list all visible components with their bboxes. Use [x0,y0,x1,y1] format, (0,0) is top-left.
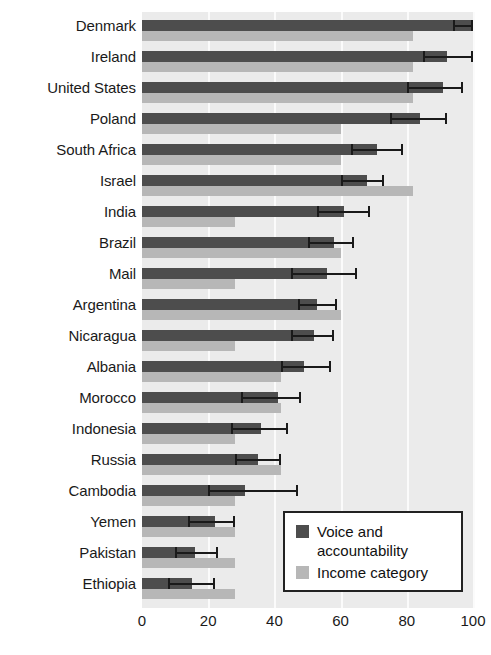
bar-row [142,454,473,485]
error-bar-cap-low [423,51,425,62]
bar-income [142,93,413,103]
bar-voice [142,144,377,155]
bar-voice [142,175,367,186]
error-bar [390,113,446,124]
y-axis-label: Mail [2,265,136,282]
error-bar-cap-high [299,392,301,403]
error-bar [281,361,331,372]
chart-legend: Voice and accountability Income category [283,511,463,592]
bar-income [142,217,235,227]
error-bar-cap-low [168,578,170,589]
y-axis-label: Israel [2,172,136,189]
bar-income [142,372,281,382]
bar-row [142,361,473,392]
error-bar [423,51,473,62]
bar-voice [142,237,334,248]
bar-income [142,527,235,537]
x-axis-tick-20: 20 [200,612,217,629]
y-axis-label: Denmark [2,17,136,34]
y-axis-category-labels: DenmarkIrelandUnited StatesPolandSouth A… [0,12,136,608]
bar-voice [142,299,317,310]
bar-income [142,31,413,41]
error-bar-line [291,273,357,275]
bar-income [142,403,281,413]
y-axis-label: Poland [2,110,136,127]
error-bar [235,454,281,465]
legend-item-income-category: Income category [296,563,428,582]
error-bar [308,237,354,248]
bar-income [142,186,413,196]
error-bar-line [235,459,281,461]
bar-income [142,341,235,351]
error-bar-cap-high [382,175,384,186]
legend-label-income: Income category [317,563,428,582]
error-bar-line [291,335,334,337]
bar-row [142,113,473,144]
error-bar-line [351,149,404,151]
error-bar [291,330,334,341]
error-bar-cap-low [308,237,310,248]
legend-item-voice-and-accountability: Voice and accountability [296,522,452,560]
error-bar-cap-high [332,330,334,341]
error-bar-cap-low [208,485,210,496]
y-axis-label: Cambodia [2,482,136,499]
error-bar-cap-low [241,392,243,403]
y-axis-label: United States [2,79,136,96]
error-bar-cap-high [216,547,218,558]
error-bar [188,516,234,527]
x-axis-tick-0: 0 [138,612,146,629]
bar-row [142,144,473,175]
bar-income [142,434,235,444]
y-axis-label: Nicaragua [2,327,136,344]
error-bar [351,144,404,155]
error-bar-cap-high [335,299,337,310]
bar-voice [142,361,304,372]
error-bar-cap-low [351,144,353,155]
error-bar-cap-low [281,361,283,372]
error-bar-cap-high [445,113,447,124]
error-bar-cap-high [461,82,463,93]
y-axis-label: Brazil [2,234,136,251]
error-bar-cap-high [368,206,370,217]
error-bar-line [308,242,354,244]
bar-row [142,82,473,113]
bar-row [142,237,473,268]
x-axis-tick-60: 60 [332,612,349,629]
x-axis-tick-80: 80 [398,612,415,629]
bar-income [142,310,341,320]
x-axis-tick-labels: 020406080100 [142,612,473,642]
error-bar [168,578,214,589]
error-bar [175,547,218,558]
error-bar-line [407,87,463,89]
y-axis-label: Indonesia [2,420,136,437]
bar-income [142,558,235,568]
bar-row [142,206,473,237]
error-bar-cap-low [390,113,392,124]
error-bar-cap-high [471,20,473,31]
bar-row [142,20,473,51]
error-bar-line [208,490,297,492]
error-bar-line [231,428,287,430]
y-axis-label: Morocco [2,389,136,406]
bar-row [142,299,473,330]
bar-voice [142,330,314,341]
error-bar-cap-low [231,423,233,434]
error-bar-cap-low [291,268,293,279]
bar-row [142,330,473,361]
y-axis-label: India [2,203,136,220]
error-bar-line [175,552,218,554]
bar-voice [142,20,473,31]
legend-label-voice: Voice and accountability [317,522,452,560]
error-bar [453,20,473,31]
error-bar-cap-low [291,330,293,341]
error-bar-cap-low [175,547,177,558]
bar-income [142,279,235,289]
error-bar-cap-low [298,299,300,310]
y-axis-label: Yemen [2,513,136,530]
error-bar-cap-high [286,423,288,434]
bar-row [142,175,473,206]
y-axis-label: Argentina [2,296,136,313]
error-bar-cap-high [279,454,281,465]
error-bar [298,299,338,310]
y-axis-label: Pakistan [2,544,136,561]
